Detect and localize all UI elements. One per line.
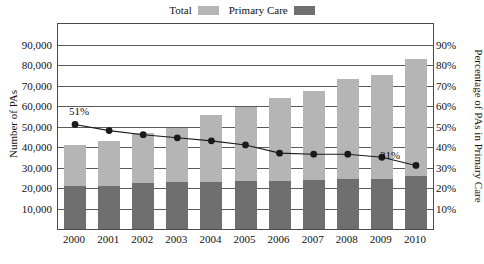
x-axis-tick-label: 2010 <box>398 234 432 245</box>
chart-figure: Total Primary Care Number of PAs Percent… <box>0 0 484 264</box>
y-axis-left-tick-label: 50,000 <box>22 122 52 133</box>
y-axis-left-tick-label: 40,000 <box>22 142 52 153</box>
y-axis-left-tick-label: 60,000 <box>22 101 52 112</box>
y-axis-right-tick-label: 70% <box>436 81 456 92</box>
y-axis-right-tick-label: 80% <box>436 60 456 71</box>
y-axis-right-tick-label: 30% <box>436 163 456 174</box>
bar-primary-care <box>132 183 154 229</box>
y-axis-left-tick-label: 90,000 <box>22 40 52 51</box>
x-axis-tick-label: 2002 <box>125 234 159 245</box>
percentage-annotation: 51% <box>69 106 89 117</box>
y-axis-right-ticks: 10%20%30%40%50%60%70%80%90% <box>436 0 480 264</box>
chart-legend: Total Primary Care <box>0 0 484 20</box>
plot-inner: 51%31% <box>58 24 433 229</box>
legend-label-primary-care: Primary Care <box>229 5 288 16</box>
y-axis-right-tick-label: 60% <box>436 101 456 112</box>
x-axis-tick-label: 2006 <box>262 234 296 245</box>
legend-swatch-total <box>198 6 219 15</box>
y-axis-right-tick-label: 20% <box>436 183 456 194</box>
y-axis-left-tick-label: 70,000 <box>22 81 52 92</box>
x-axis-tick-label: 2001 <box>91 234 125 245</box>
x-axis-tick-label: 2003 <box>159 234 193 245</box>
x-axis-tick-label: 2007 <box>296 234 330 245</box>
y-axis-right-tick-label: 90% <box>436 40 456 51</box>
x-axis-tick-label: 2004 <box>193 234 227 245</box>
legend-swatch-primary-care <box>294 6 315 15</box>
legend-item-primary-care: Primary Care <box>229 5 315 16</box>
bar-primary-care <box>200 182 222 229</box>
legend-item-total: Total <box>169 5 218 16</box>
data-point-marker <box>106 127 113 134</box>
bar-primary-care <box>337 179 359 229</box>
bar-primary-care <box>64 186 86 229</box>
bar-primary-care <box>371 179 393 229</box>
x-axis-ticks: 2000200120022003200420052006200720082009… <box>57 234 434 252</box>
y-axis-right-tick-label: 10% <box>436 204 456 215</box>
gridline <box>58 65 433 66</box>
y-axis-left-ticks: 10,00020,00030,00040,00050,00060,00070,0… <box>0 0 52 264</box>
x-axis-tick-label: 2009 <box>364 234 398 245</box>
y-axis-left-tick-label: 20,000 <box>22 183 52 194</box>
bar-primary-care <box>166 182 188 229</box>
bar-primary-care <box>98 186 120 229</box>
x-axis-tick-label: 2008 <box>330 234 364 245</box>
x-axis-tick-label: 2000 <box>57 234 91 245</box>
y-axis-right-tick-label: 50% <box>436 122 456 133</box>
plot-area: 51%31% <box>57 23 434 230</box>
x-axis-tick-label: 2005 <box>228 234 262 245</box>
y-axis-left-tick-label: 30,000 <box>22 163 52 174</box>
bar-primary-care <box>405 176 427 229</box>
percentage-annotation: 31% <box>380 150 400 161</box>
bar-primary-care <box>303 180 325 229</box>
bar-primary-care <box>235 181 257 229</box>
legend-label-total: Total <box>169 5 191 16</box>
y-axis-right-tick-label: 40% <box>436 142 456 153</box>
y-axis-left-tick-label: 80,000 <box>22 60 52 71</box>
gridline <box>58 45 433 46</box>
bar-primary-care <box>269 181 291 229</box>
y-axis-left-tick-label: 10,000 <box>22 204 52 215</box>
